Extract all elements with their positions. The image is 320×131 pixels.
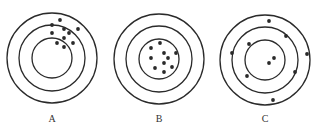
shot-dot	[305, 52, 309, 56]
shot-dot	[245, 74, 249, 78]
shot-dot	[170, 65, 174, 69]
shot-dot	[271, 98, 275, 102]
shot-dot	[71, 41, 75, 45]
ring-middle	[19, 25, 85, 91]
shot-dot	[272, 56, 276, 60]
target-b-label: B	[149, 113, 169, 125]
shot-dot	[62, 36, 66, 40]
shot-dot	[284, 34, 288, 38]
shot-dot	[247, 42, 251, 46]
ring-middle	[126, 26, 192, 92]
shot-dot	[67, 31, 71, 35]
shot-dot	[149, 46, 153, 50]
shot-dot	[162, 51, 166, 55]
ring-outer	[220, 15, 310, 105]
ring-inner	[32, 38, 72, 78]
shot-dot	[58, 18, 62, 22]
shot-dot	[267, 61, 271, 65]
target-a	[7, 13, 97, 103]
shot-dot	[162, 61, 166, 65]
shot-dot	[162, 70, 166, 74]
targets-diagram	[0, 0, 320, 131]
ring-middle	[232, 27, 298, 93]
shot-dot	[55, 41, 59, 45]
shot-dot	[50, 31, 54, 35]
target-c-label: C	[255, 113, 275, 125]
shot-dot	[153, 66, 157, 70]
shot-dot	[76, 27, 80, 31]
target-c	[220, 15, 310, 105]
ring-inner	[139, 39, 179, 79]
shot-dot	[149, 56, 153, 60]
shot-dot	[174, 51, 178, 55]
shot-dot	[62, 27, 66, 31]
shot-dot	[158, 41, 162, 45]
shot-dot	[166, 56, 170, 60]
shot-dot	[230, 51, 234, 55]
target-a-label: A	[42, 113, 62, 125]
ring-inner	[245, 40, 285, 80]
shot-dot	[267, 19, 271, 23]
shot-dot	[293, 70, 297, 74]
ring-outer	[114, 14, 204, 104]
shot-dot	[62, 45, 66, 49]
shot-dot	[50, 23, 54, 27]
target-b	[114, 14, 204, 104]
